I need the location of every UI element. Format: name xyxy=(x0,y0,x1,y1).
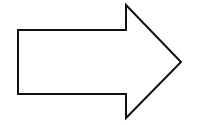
arrow-diagram xyxy=(0,0,197,125)
right-arrow-icon xyxy=(18,5,181,118)
